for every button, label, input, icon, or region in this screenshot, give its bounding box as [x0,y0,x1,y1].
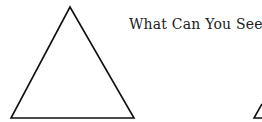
large-triangle [11,7,134,118]
diagram-title: What Can You See? [129,16,262,32]
small-partial-triangle [254,104,262,118]
